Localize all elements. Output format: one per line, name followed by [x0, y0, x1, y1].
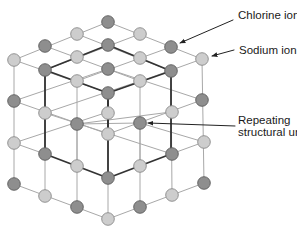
lattice-ions — [8, 16, 211, 226]
chlorine-ion-node — [165, 65, 178, 78]
bond-line — [108, 69, 202, 100]
chlorine-ion-node — [102, 87, 115, 100]
chlorine-ion-node — [8, 95, 21, 108]
structural-unit-label-line1: Repeating — [238, 114, 290, 126]
sodium-ion-node — [196, 53, 209, 66]
chlorine-ion-node — [8, 178, 21, 191]
sodium-ion-node — [102, 213, 115, 226]
sodium-arrow — [212, 50, 234, 56]
chlorine-ion-node — [71, 118, 84, 131]
chlorine-ion-label: Chlorine ion — [238, 9, 297, 21]
structural-unit-label-line2: structural unit — [238, 126, 297, 138]
sodium-ion-node — [134, 28, 147, 41]
bond-line — [202, 59, 204, 183]
bond-line — [14, 112, 108, 143]
sodium-ion-node — [166, 106, 179, 119]
sodium-ion-node — [8, 54, 21, 67]
chlorine-ion-node — [196, 94, 209, 107]
sodium-ion-node — [134, 75, 147, 88]
unit-arrow — [148, 123, 235, 126]
bond-line — [108, 183, 204, 219]
sodium-ion-node — [8, 137, 21, 150]
sodium-ion-node — [39, 190, 52, 203]
chlorine-ion-node — [71, 201, 84, 214]
chlorine-ion-node — [102, 172, 115, 185]
sodium-ion-node — [166, 189, 179, 202]
callout-arrows — [148, 20, 235, 126]
chlorine-ion-node — [39, 148, 52, 161]
bond-line — [108, 100, 202, 134]
chlorine-ion-node — [39, 40, 52, 53]
chlorine-ion-node — [134, 117, 147, 130]
sodium-ion-node — [134, 52, 147, 65]
sodium-ion-node — [71, 75, 84, 88]
chlorine-ion-node — [198, 177, 211, 190]
bond-line — [14, 184, 108, 219]
sodium-ion-node — [102, 107, 115, 120]
sodium-ion-label: Sodium ion — [239, 44, 297, 56]
chlorine-ion-node — [102, 39, 115, 52]
sodium-ion-node — [198, 136, 211, 149]
sodium-ion-node — [71, 160, 84, 173]
sodium-ion-node — [71, 51, 84, 64]
chlorine-ion-node — [39, 64, 52, 77]
chlorine-ion-node — [165, 41, 178, 54]
sodium-ion-node — [39, 107, 52, 120]
chlorine-ion-node — [102, 16, 115, 29]
sodium-ion-node — [102, 128, 115, 141]
chlorine-arrow — [180, 20, 233, 43]
chlorine-ion-node — [102, 63, 115, 76]
sodium-ion-node — [134, 160, 147, 173]
sodium-ion-node — [71, 28, 84, 41]
chlorine-ion-node — [134, 201, 147, 214]
chlorine-ion-node — [166, 148, 179, 161]
